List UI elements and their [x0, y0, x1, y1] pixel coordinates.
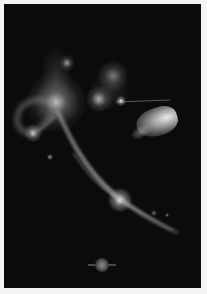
sweeping-curve-stroke — [58, 112, 176, 232]
horizontal-streak — [116, 100, 170, 102]
emblem-label — [88, 262, 116, 268]
left-loop-stroke — [17, 100, 56, 133]
light-strokes — [4, 4, 201, 288]
artwork-canvas — [4, 4, 201, 288]
